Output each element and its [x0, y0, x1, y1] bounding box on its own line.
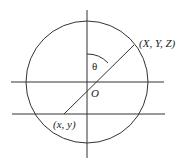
theta-label: θ — [92, 60, 97, 72]
theta-angle-arc — [87, 54, 108, 63]
projection-diagram: θ O (X, Y, Z) (x, y) — [0, 0, 187, 167]
projection-ray — [64, 45, 134, 114]
world-point-label: (X, Y, Z) — [139, 37, 176, 50]
image-point-label: (x, y) — [53, 118, 76, 131]
origin-label: O — [91, 87, 99, 99]
